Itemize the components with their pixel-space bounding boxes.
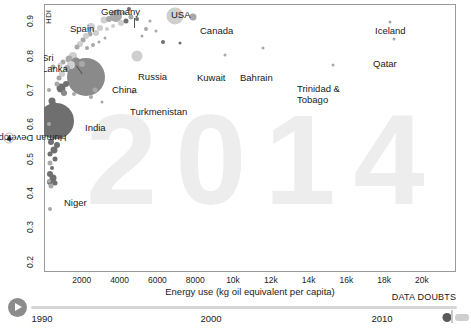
y-tick-label: 0.9 [20, 16, 40, 26]
timeline-track[interactable] [31, 306, 457, 309]
x-tick-label: 20k [415, 275, 429, 285]
data-bubble[interactable] [89, 95, 93, 99]
y-tick-label: 0.3 [20, 222, 40, 232]
country-label[interactable]: Turkmenistan [130, 106, 187, 117]
timeline-year-label: 1990 [31, 313, 52, 324]
timeline-trail [455, 314, 469, 321]
data-bubble[interactable] [154, 29, 157, 32]
data-bubble[interactable] [85, 46, 89, 50]
x-tick-label: 14k [302, 275, 316, 285]
data-bubble[interactable] [105, 27, 109, 31]
y-tick-label: 0.2 [20, 257, 40, 267]
timeline-control[interactable]: 199020002010 DATA DOUBTS [0, 296, 471, 331]
data-bubble[interactable] [262, 47, 265, 50]
data-bubble[interactable] [75, 44, 80, 49]
country-label[interactable]: China [112, 84, 137, 95]
play-icon [15, 303, 22, 311]
data-doubts-label[interactable]: DATA DOUBTS [392, 292, 456, 302]
country-label[interactable]: Iceland [375, 25, 406, 36]
data-bubble[interactable] [148, 20, 151, 23]
data-bubble[interactable] [106, 16, 112, 22]
country-label[interactable]: Qatar [373, 58, 397, 69]
y-axis-top-label: HDI [40, 6, 56, 28]
data-bubble[interactable] [79, 61, 85, 67]
data-bubble[interactable] [72, 92, 76, 96]
data-bubble[interactable] [144, 27, 148, 31]
data-bubble[interactable] [135, 17, 139, 21]
data-bubble[interactable] [48, 152, 53, 157]
data-bubble[interactable] [91, 43, 95, 47]
data-bubble[interactable] [131, 51, 142, 62]
info-icon[interactable]: ? [4, 133, 15, 144]
country-label[interactable]: Canada [200, 25, 233, 36]
data-bubble[interactable] [97, 41, 100, 44]
y-tick-label: 0.8 [20, 51, 40, 61]
x-tick-label: 12k [264, 275, 278, 285]
country-label[interactable]: Trinidad & Tobago [297, 83, 340, 105]
country-label[interactable]: Russia [138, 71, 167, 82]
data-bubble[interactable] [124, 19, 129, 24]
data-bubble[interactable] [61, 90, 67, 96]
data-bubble[interactable] [53, 157, 58, 162]
x-tick-label: 10k [226, 275, 240, 285]
x-tick-label: 2000 [72, 275, 91, 285]
data-bubble[interactable] [55, 82, 60, 87]
data-bubble[interactable] [48, 108, 53, 113]
country-label[interactable]: Germany [101, 6, 140, 17]
country-label[interactable]: India [85, 122, 106, 133]
label-leader-line [134, 18, 135, 28]
timeline-end-marker [451, 310, 453, 323]
y-tick-label: 0.5 [20, 154, 40, 164]
data-bubble[interactable] [49, 184, 54, 189]
country-label[interactable]: Spain [70, 23, 94, 34]
data-bubble[interactable] [104, 36, 107, 39]
data-bubble[interactable] [141, 35, 144, 38]
data-bubble[interactable] [47, 88, 51, 92]
country-label[interactable]: Sri Lanka [44, 52, 68, 74]
data-bubble[interactable] [51, 102, 57, 108]
data-bubble[interactable] [179, 42, 182, 45]
bubble-chart-app: 2014 GermanySpainUSACanadaIcelandQatarSr… [0, 0, 471, 331]
data-bubble[interactable] [100, 100, 103, 103]
country-label[interactable]: Niger [64, 197, 87, 208]
data-bubble[interactable] [56, 75, 61, 80]
x-tick-label: 8000 [186, 275, 205, 285]
data-bubble[interactable] [61, 115, 66, 120]
x-tick-label: 6000 [148, 275, 167, 285]
data-bubble[interactable] [47, 161, 52, 166]
y-tick-label: 0.7 [20, 85, 40, 95]
data-bubble[interactable] [47, 179, 51, 183]
data-bubble[interactable] [392, 38, 395, 41]
country-label[interactable]: Bahrain [240, 72, 273, 83]
data-bubble[interactable] [93, 87, 98, 92]
data-bubble[interactable] [161, 40, 165, 44]
country-label[interactable]: Kuwait [197, 72, 226, 83]
x-tick-label: 16k [340, 275, 354, 285]
y-axis-title[interactable]: Human Development Index ▾ ? [2, 4, 16, 272]
data-bubble[interactable] [332, 64, 335, 67]
x-tick-label: 18k [377, 275, 391, 285]
data-bubble[interactable] [224, 53, 227, 56]
plot-inner: 2014 GermanySpainUSACanadaIcelandQatarSr… [44, 4, 456, 272]
data-bubble[interactable] [118, 20, 124, 26]
data-bubble[interactable] [50, 166, 54, 170]
data-bubble[interactable] [47, 122, 51, 126]
data-bubble[interactable] [388, 20, 391, 23]
chart-area: 2014 GermanySpainUSACanadaIcelandQatarSr… [44, 4, 456, 272]
data-bubble[interactable] [48, 207, 52, 211]
y-tick-label: 0.4 [20, 188, 40, 198]
timeline-year-label: 2010 [371, 313, 392, 324]
country-label[interactable]: USA [171, 9, 191, 20]
timeline-year-label: 2000 [200, 313, 221, 324]
data-bubble[interactable] [111, 24, 115, 28]
play-button[interactable] [8, 298, 27, 317]
y-tick-label: 0.6 [20, 119, 40, 129]
x-tick-label: 4000 [110, 275, 129, 285]
